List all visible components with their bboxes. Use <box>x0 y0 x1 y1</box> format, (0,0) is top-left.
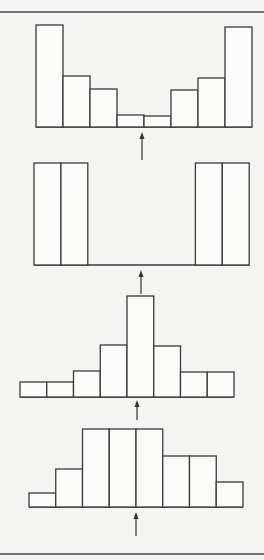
histogram-panel-3 <box>20 296 234 420</box>
histogram-bar <box>100 345 127 397</box>
histogram-bar <box>190 456 217 507</box>
histogram-bar <box>222 163 249 265</box>
histogram-bar <box>63 76 90 127</box>
histogram-bar <box>216 482 243 507</box>
histogram-bar <box>144 116 171 127</box>
histogram-bar <box>207 372 234 397</box>
histogram-bar <box>34 163 61 265</box>
histogram-bar <box>163 456 190 507</box>
histogram-bar <box>74 371 101 397</box>
histogram-bar <box>109 429 136 507</box>
histogram-figure <box>0 0 264 560</box>
histogram-bar <box>127 296 154 397</box>
histogram-bar <box>154 346 181 397</box>
histogram-bar <box>47 382 74 397</box>
histogram-bar <box>83 429 110 507</box>
histogram-bar <box>136 429 163 507</box>
arrow-up-icon <box>135 400 140 407</box>
histogram-bar <box>225 27 252 127</box>
histogram-bar <box>181 372 208 397</box>
arrow-up-icon <box>140 132 145 139</box>
histogram-bar <box>195 163 222 265</box>
histogram-bar <box>171 90 198 127</box>
histogram-bar <box>36 25 63 127</box>
histogram-bar <box>90 89 117 127</box>
arrow-up-icon <box>134 512 139 519</box>
histogram-panel-1 <box>36 25 252 160</box>
histogram-bar <box>56 469 83 507</box>
arrow-up-icon <box>139 270 144 277</box>
histogram-panel-4 <box>29 429 243 536</box>
histogram-bar <box>117 115 144 127</box>
histogram-panels <box>20 25 252 536</box>
histogram-bar <box>198 78 225 127</box>
histogram-panel-2 <box>34 163 249 294</box>
histogram-bar <box>20 382 47 397</box>
histogram-bar <box>61 163 88 265</box>
histogram-bar <box>29 493 56 507</box>
